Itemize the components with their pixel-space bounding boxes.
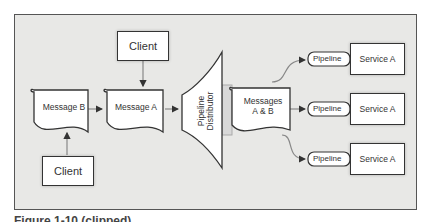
pipeline-distributor-label: Pipeline Distributor [197,81,215,141]
service-label: Service A [360,104,396,115]
client-box-bottom: Client [42,156,94,186]
messages-ab-line1: Messages [238,96,288,106]
client-label: Client [54,166,82,177]
service-box: Service A [350,143,405,175]
messages-ab-line2: A & B [238,106,288,116]
message-a-label: Message A [110,102,162,113]
messages-ab-label: Messages A & B [238,96,288,116]
service-label: Service A [360,54,396,65]
service-box: Service A [350,43,405,75]
pipeline-label: Pipeline [313,104,341,113]
service-box: Service A [350,93,405,125]
client-box-top: Client [117,31,169,61]
client-label: Client [129,41,157,52]
service-label: Service A [360,154,396,165]
message-b-label: Message B [40,102,88,113]
pipeline-label: Pipeline [313,54,341,63]
pipeline-label: Pipeline [313,154,341,163]
distributor-line2: Distributor [206,81,215,141]
figure-caption: Figure 1-10 (clipped) [14,214,131,222]
